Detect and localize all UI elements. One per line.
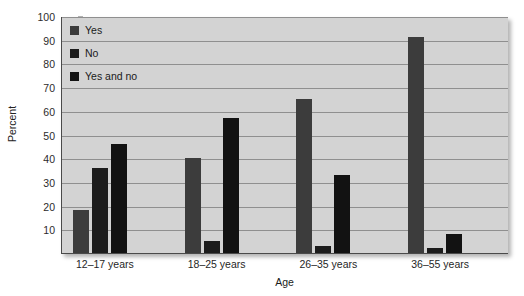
gridline bbox=[62, 230, 508, 231]
legend-item-no: No bbox=[70, 44, 137, 62]
legend-item-label: Yes and no bbox=[85, 70, 137, 82]
bar-chart-figure: Percent 102030405060708090100 YesNoYes a… bbox=[0, 0, 524, 296]
legend-item-label: No bbox=[85, 47, 98, 59]
bar bbox=[296, 99, 312, 253]
y-axis-tick-labels: 102030405060708090100 bbox=[22, 0, 58, 296]
y-axis-tick-label: 70 bbox=[43, 82, 55, 94]
gridline bbox=[62, 159, 508, 160]
legend-item-yes: Yes bbox=[70, 21, 137, 39]
bar bbox=[446, 234, 462, 253]
bar bbox=[315, 246, 331, 253]
x-axis-tick-label: 12–17 years bbox=[76, 258, 134, 270]
bar bbox=[408, 37, 424, 253]
x-axis-title: Age bbox=[61, 276, 508, 288]
bar bbox=[223, 118, 239, 253]
gridline bbox=[62, 207, 508, 208]
y-axis-tick-label: 60 bbox=[43, 106, 55, 118]
y-axis-tick-label: 90 bbox=[43, 35, 55, 47]
legend: YesNoYes and no bbox=[70, 21, 137, 90]
y-axis-tick-label: 40 bbox=[43, 153, 55, 165]
gridline bbox=[62, 183, 508, 184]
legend-item-label: Yes bbox=[85, 24, 102, 36]
legend-item-yes-and-no: Yes and no bbox=[70, 67, 137, 85]
bar bbox=[185, 158, 201, 253]
y-axis-tick-label: 20 bbox=[43, 201, 55, 213]
legend-swatch-icon bbox=[70, 26, 79, 35]
plot-area: YesNoYes and no bbox=[61, 17, 508, 254]
y-axis-tick-label: 10 bbox=[43, 224, 55, 236]
y-axis-title: Percent bbox=[6, 94, 18, 154]
x-axis-tick-label: 36–55 years bbox=[411, 258, 469, 270]
bar bbox=[111, 144, 127, 253]
y-axis-tick-label: 80 bbox=[43, 58, 55, 70]
x-axis-tick-labels: 12–17 years18–25 years26–35 years36–55 y… bbox=[61, 258, 508, 274]
legend-swatch-icon bbox=[70, 49, 79, 58]
x-axis-tick-label: 26–35 years bbox=[299, 258, 357, 270]
gridline bbox=[62, 17, 508, 18]
y-axis-tick-label: 30 bbox=[43, 177, 55, 189]
bar bbox=[92, 168, 108, 253]
bar bbox=[73, 210, 89, 253]
bar bbox=[334, 175, 350, 253]
y-axis-tick-label: 100 bbox=[37, 11, 55, 23]
legend-swatch-icon bbox=[70, 72, 79, 81]
y-axis-tick-label: 50 bbox=[43, 130, 55, 142]
bar bbox=[427, 248, 443, 253]
gridline bbox=[62, 136, 508, 137]
bar bbox=[204, 241, 220, 253]
x-axis-tick-label: 18–25 years bbox=[188, 258, 246, 270]
gridline bbox=[62, 112, 508, 113]
